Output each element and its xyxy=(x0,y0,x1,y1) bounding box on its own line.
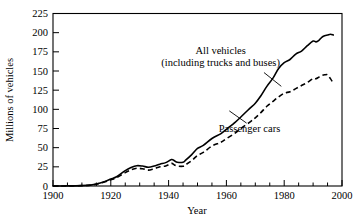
y-tick-label: 150 xyxy=(32,66,48,77)
x-axis-tick-labels: 190019201940196019802000 xyxy=(43,190,353,201)
annotation-label-all-vehicles: (including trucks and buses) xyxy=(161,57,280,69)
plot-frame xyxy=(53,14,342,187)
y-tick-label: 200 xyxy=(32,27,48,38)
chart-annotations: All vehicles(including trucks and buses)… xyxy=(161,45,281,134)
chart-figure: 0255075100125150175200225 19001920194019… xyxy=(0,0,362,223)
x-axis-title: Year xyxy=(187,205,207,216)
x-tick-label: 2000 xyxy=(332,190,353,201)
annotation-leader-all-vehicles xyxy=(264,73,281,87)
y-axis-tick-labels: 0255075100125150175200225 xyxy=(32,8,48,192)
y-axis-ticks xyxy=(53,14,59,187)
x-tick-label: 1940 xyxy=(158,190,179,201)
y-tick-label: 50 xyxy=(38,142,49,153)
annotation-leader-passenger-cars xyxy=(229,111,246,123)
annotation-label-passenger-cars: Passenger cars xyxy=(219,123,281,134)
series-passenger-cars xyxy=(53,75,333,186)
y-tick-label: 225 xyxy=(32,8,48,19)
annotation-label-all-vehicles: All vehicles xyxy=(195,45,245,56)
x-tick-label: 1960 xyxy=(216,190,237,201)
vehicles-line-chart: 0255075100125150175200225 19001920194019… xyxy=(0,0,362,223)
y-tick-label: 175 xyxy=(32,46,48,57)
y-tick-label: 25 xyxy=(38,161,49,172)
y-tick-label: 75 xyxy=(38,123,49,134)
x-tick-label: 1920 xyxy=(100,190,121,201)
x-tick-label: 1980 xyxy=(274,190,295,201)
y-tick-label: 100 xyxy=(32,104,48,115)
y-tick-label: 125 xyxy=(32,85,48,96)
y-axis-title: Millions of vehicles xyxy=(4,58,15,142)
x-tick-label: 1900 xyxy=(43,190,64,201)
